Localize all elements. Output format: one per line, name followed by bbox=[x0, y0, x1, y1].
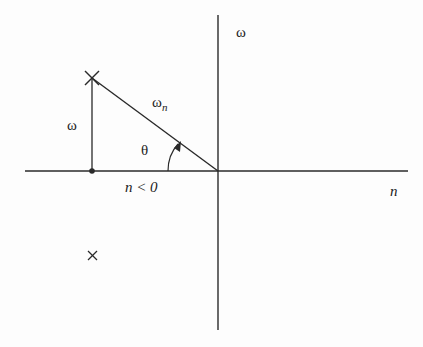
axis-omega-label: ω bbox=[236, 24, 246, 40]
omega-n-label: ωn bbox=[152, 94, 168, 113]
region-label: n < 0 bbox=[125, 179, 158, 195]
theta-label: θ bbox=[141, 142, 148, 158]
arrowhead-icon bbox=[174, 141, 181, 152]
pole-lower-icon bbox=[88, 251, 97, 260]
foot-point bbox=[89, 168, 95, 174]
omega-segment-label: ω bbox=[67, 117, 77, 133]
omega-n-vector bbox=[92, 78, 218, 171]
axis-n-label: n bbox=[390, 183, 398, 199]
s-plane-diagram: ω n ω ωn θ n < 0 bbox=[0, 0, 423, 347]
